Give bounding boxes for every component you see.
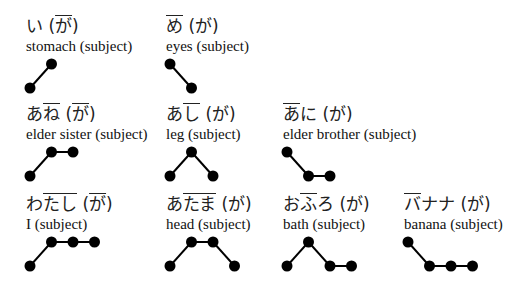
- pitch-contour: [26, 194, 126, 274]
- pitch-dot: [208, 171, 219, 182]
- pitch-contour: [26, 16, 126, 96]
- pitch-dot: [403, 237, 414, 248]
- pitch-dot: [25, 261, 36, 272]
- pitch-dot: [46, 237, 57, 248]
- pitch-dot: [282, 261, 293, 272]
- pitch-contour: [166, 16, 266, 96]
- pitch-dot: [89, 237, 100, 248]
- pitch-contour: [283, 194, 383, 274]
- pitch-dot: [325, 171, 336, 182]
- pitch-dot: [303, 237, 314, 248]
- pitch-dot: [467, 261, 478, 272]
- pitch-dot: [282, 147, 293, 158]
- pitch-dot: [186, 147, 197, 158]
- pitch-dot: [165, 171, 176, 182]
- pitch-dot: [303, 171, 314, 182]
- pitch-dot: [25, 171, 36, 182]
- pitch-contour: [166, 104, 266, 184]
- pitch-dot: [325, 261, 336, 272]
- pitch-dot: [186, 83, 197, 94]
- pitch-dot: [208, 237, 219, 248]
- pitch-contour: [166, 194, 266, 274]
- pitch-dot: [446, 261, 457, 272]
- pitch-dot: [68, 147, 79, 158]
- pitch-dot: [46, 147, 57, 158]
- pitch-dot: [229, 261, 240, 272]
- pitch-dot: [165, 59, 176, 70]
- pitch-dot: [46, 59, 57, 70]
- pitch-contour: [26, 104, 126, 184]
- pitch-dot: [165, 261, 176, 272]
- pitch-dot: [346, 261, 357, 272]
- pitch-dot: [186, 237, 197, 248]
- pitch-contour: [283, 104, 383, 184]
- pitch-contour: [404, 194, 504, 274]
- pitch-dot: [68, 237, 79, 248]
- pitch-dot: [25, 83, 36, 94]
- pitch-dot: [424, 261, 435, 272]
